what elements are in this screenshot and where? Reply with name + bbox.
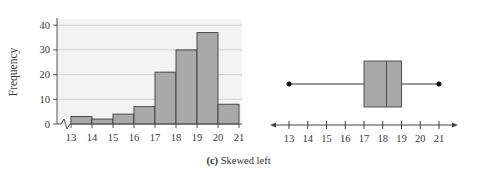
arrow-left-icon	[270, 123, 276, 128]
number-line-label: 13	[284, 133, 295, 144]
y-axis-title: Frequency	[7, 47, 20, 96]
box-plot: 131415161718192021	[270, 61, 458, 144]
y-tick-label: 30	[40, 44, 51, 55]
box-iqr	[364, 61, 402, 107]
caption-label: (c)	[206, 155, 218, 166]
number-line-label: 17	[359, 133, 370, 144]
number-line-label: 15	[321, 133, 332, 144]
x-tick-label: 20	[213, 132, 224, 143]
histogram-bar	[155, 72, 176, 124]
x-tick-label: 15	[108, 132, 119, 143]
y-tick-label: 0	[45, 119, 50, 130]
number-line-label: 21	[434, 133, 445, 144]
x-tick-label: 13	[66, 132, 77, 143]
histogram-bar	[113, 114, 134, 124]
x-tick-label: 18	[171, 132, 182, 143]
max-point	[437, 82, 442, 87]
figure-caption: (c) Skewed left	[0, 155, 477, 166]
histogram-bar	[197, 33, 218, 124]
y-axis-ticks: 010203040	[40, 20, 58, 130]
y-tick-label: 20	[40, 69, 51, 80]
figure: 010203040 131415161718192021 Frequency 1…	[0, 0, 477, 179]
number-line-label: 18	[378, 133, 389, 144]
number-line-label: 16	[340, 133, 351, 144]
histogram-bar	[134, 107, 155, 124]
y-tick-label: 10	[40, 94, 51, 105]
x-tick-label: 21	[234, 132, 245, 143]
caption-text: Skewed left	[221, 155, 271, 166]
number-line-label: 19	[396, 133, 407, 144]
min-point	[287, 82, 292, 87]
x-tick-label: 19	[192, 132, 203, 143]
y-tick-label: 40	[40, 20, 51, 31]
x-tick-label: 17	[150, 132, 161, 143]
histogram: 010203040 131415161718192021 Frequency	[7, 18, 244, 143]
x-tick-label: 14	[87, 132, 98, 143]
number-line-label: 14	[303, 133, 314, 144]
number-line-ticks: 131415161718192021	[284, 121, 445, 144]
number-line-label: 20	[415, 133, 426, 144]
x-tick-label: 16	[129, 132, 140, 143]
histogram-bar	[176, 50, 197, 124]
box-plot-shapes	[287, 61, 442, 107]
histogram-bar	[218, 104, 239, 124]
arrow-right-icon	[452, 123, 458, 128]
histogram-bar	[71, 117, 92, 124]
histogram-bar	[92, 119, 113, 124]
x-axis-ticks: 131415161718192021	[66, 124, 245, 143]
